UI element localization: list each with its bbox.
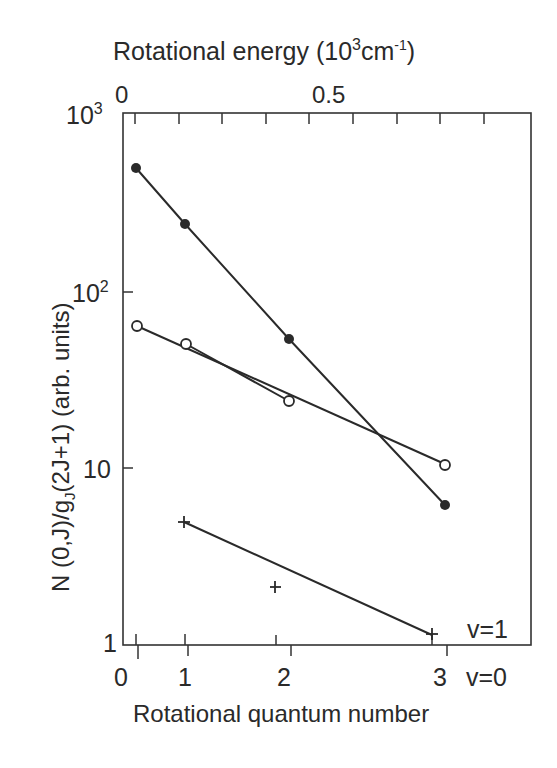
open-marker-j3 <box>440 460 450 470</box>
top-tick-label-0: 0 <box>115 81 128 108</box>
y-axis-title: N (0,J)/gJ(2J+1) (arb. units) <box>47 302 78 592</box>
cross-series-line <box>184 522 432 635</box>
open-circle-short-line <box>186 344 289 401</box>
open-marker-j1 <box>181 339 191 349</box>
rotational-population-chart: Rotational energy (103cm-1) 0 0.5 103 10… <box>0 0 557 768</box>
open-marker-j2 <box>284 396 294 406</box>
top-axis-ticks <box>135 113 484 124</box>
v1-label: v=1 <box>467 615 508 643</box>
filled-marker-j2 <box>284 334 294 344</box>
bottom-ticks-v1 <box>136 634 432 645</box>
top-axis-title: Rotational energy (103cm-1) <box>113 36 415 65</box>
cross-marker-j1 <box>178 516 190 528</box>
v0-label: v=0 <box>466 663 507 691</box>
cross-marker-j2 <box>270 581 281 593</box>
x-axis-title: Rotational quantum number <box>133 700 429 727</box>
y-axis-ticks <box>123 292 133 468</box>
x-tick-label-1: 1 <box>178 663 192 691</box>
x-tick-label-2: 2 <box>277 663 291 691</box>
x-tick-label-3: 3 <box>433 663 447 691</box>
filled-marker-j1 <box>180 219 190 229</box>
y-tick-label-1: 1 <box>103 629 117 657</box>
bottom-ticks-v0 <box>138 645 447 659</box>
open-marker-j0 <box>132 321 142 331</box>
top-tick-label-0.5: 0.5 <box>312 81 345 108</box>
x-tick-label-0: 0 <box>114 663 128 691</box>
y-tick-label-100: 102 <box>72 278 109 307</box>
cross-marker-j3 <box>426 628 438 640</box>
y-tick-label-1000: 103 <box>66 100 103 129</box>
filled-marker-j0 <box>131 163 141 173</box>
filled-marker-j3 <box>440 500 450 510</box>
y-tick-label-10: 10 <box>83 455 111 483</box>
